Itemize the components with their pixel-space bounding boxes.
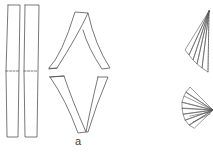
folded-strips-diagram: [0, 0, 213, 162]
strip-left: [6, 5, 20, 137]
fan-lower: [182, 87, 213, 128]
figure-canvas: a: [0, 0, 213, 162]
figure-label: a: [75, 135, 81, 147]
strip-right: [24, 5, 39, 137]
diamond-lower: [50, 76, 108, 133]
diamond-upper: [49, 12, 110, 69]
fan-upper: [185, 11, 209, 72]
